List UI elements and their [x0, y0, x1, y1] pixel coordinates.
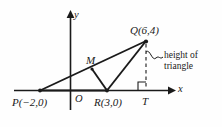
y-axis	[67, 10, 75, 110]
height-callout-line2: triangle	[164, 61, 198, 72]
point-label-q: Q(6,4)	[130, 25, 159, 37]
point-dot-m	[90, 67, 93, 70]
point-dot-q	[144, 39, 148, 43]
point-label-r: R(3,0)	[94, 97, 122, 109]
point-label-m: M	[86, 55, 95, 67]
callout-leader-squiggle	[146, 51, 163, 58]
height-callout: height of triangle	[164, 50, 198, 72]
y-axis-label: y	[74, 9, 79, 20]
point-dot-r	[105, 89, 109, 93]
median-rm	[92, 69, 107, 91]
right-angle-marker	[138, 82, 146, 90]
height-callout-line1: height of	[164, 50, 198, 61]
point-label-p: P(−2,0)	[12, 97, 47, 109]
point-label-t: T	[142, 96, 148, 108]
point-dot-p	[38, 89, 42, 93]
coordinate-geometry-figure: y x O Q(6,4) M P(−2,0) R(3,0) T height o…	[0, 0, 222, 127]
origin-label: O	[75, 93, 83, 104]
x-axis-label: x	[178, 83, 183, 94]
